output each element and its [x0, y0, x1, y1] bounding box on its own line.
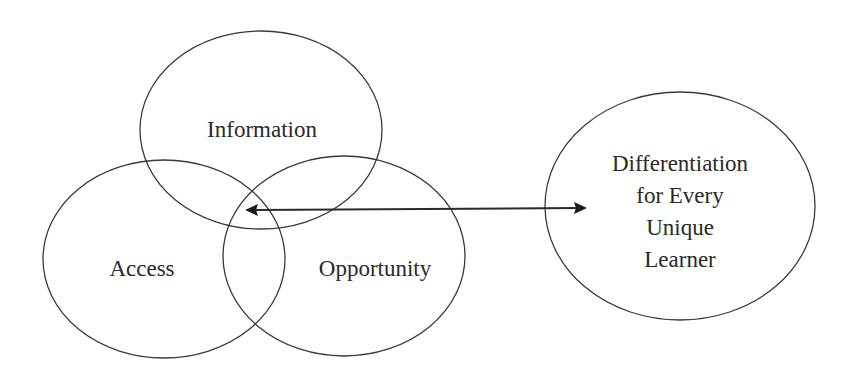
differentiation-line-4: Learner	[644, 247, 716, 272]
access-label: Access	[109, 256, 174, 281]
venn-diagram: Information Access Opportunity Different…	[0, 0, 859, 378]
opportunity-label: Opportunity	[319, 256, 432, 281]
bidirectional-arrow	[245, 202, 587, 216]
differentiation-circle: Differentiation for Every Unique Learner	[545, 92, 815, 320]
arrow-shaft	[252, 208, 580, 210]
differentiation-line-1: Differentiation	[612, 151, 749, 176]
differentiation-line-2: for Every	[636, 183, 724, 208]
opportunity-circle: Opportunity	[223, 156, 465, 356]
information-label: Information	[207, 117, 317, 142]
differentiation-line-3: Unique	[646, 215, 714, 240]
